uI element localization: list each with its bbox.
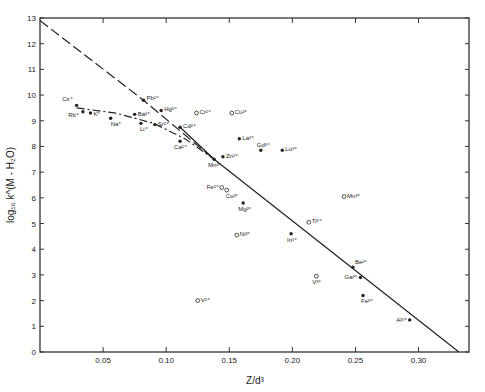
point-label: Gd³⁺	[257, 142, 270, 148]
point-label: Li⁺	[140, 126, 148, 132]
filled-data-point	[281, 149, 284, 152]
filled-data-point	[238, 137, 241, 140]
y-tick-label: 13	[27, 14, 36, 23]
point-label: Ti³⁺	[312, 218, 322, 224]
point-label: In³⁺	[287, 237, 297, 243]
open-data-point	[220, 186, 224, 190]
plot-border	[40, 18, 469, 352]
axis-ticks: 0.050.100.150.200.250.300123456789101112…	[27, 14, 469, 365]
open-data-point	[195, 111, 199, 115]
y-axis-title: log₁₀ k^(M - H₂O)	[5, 147, 16, 223]
point-label: La³⁺	[242, 135, 254, 141]
y-tick-label: 9	[32, 117, 37, 126]
filled-data-point	[139, 122, 142, 125]
point-label: Rb⁺	[68, 112, 79, 118]
point-label: Cr²⁺	[199, 109, 210, 115]
y-tick-label: 11	[28, 65, 37, 74]
point-label: Mg²⁺	[238, 206, 251, 212]
filled-data-point	[178, 140, 181, 143]
open-data-point	[314, 274, 318, 278]
point-label: Fe³⁺	[361, 298, 373, 304]
x-tick-label: 0.30	[411, 356, 427, 365]
y-tick-label: 6	[32, 194, 37, 203]
filled-data-point	[241, 201, 244, 204]
point-label: V³⁺	[312, 279, 321, 285]
filled-data-point	[109, 117, 112, 120]
point-label: Cs⁺	[62, 96, 72, 102]
filled-data-point	[351, 266, 354, 269]
filled-data-point	[133, 113, 136, 116]
filled-data-point	[178, 125, 181, 128]
filled-data-point	[359, 276, 362, 279]
open-data-point	[307, 220, 311, 224]
scatter-chart: 0.050.100.150.200.250.300123456789101112…	[0, 0, 485, 392]
filled-data-point	[89, 111, 92, 114]
point-label: Mn²⁺	[208, 162, 221, 168]
filled-data-point	[153, 123, 156, 126]
filled-data-point	[159, 109, 162, 112]
point-label: Al³⁺	[396, 317, 406, 323]
x-tick-label: 0.10	[158, 356, 174, 365]
x-tick-label: 0.15	[221, 356, 237, 365]
filled-data-point	[75, 104, 78, 107]
filled-data-point	[142, 99, 145, 102]
y-tick-label: 4	[32, 245, 37, 254]
point-label: Ni²⁺	[240, 231, 251, 237]
point-label: Be²⁺	[355, 259, 367, 265]
y-tick-label: 10	[27, 91, 36, 100]
plot-frame	[40, 18, 469, 352]
point-label: Cd²⁺	[183, 123, 196, 129]
point-label: Ca²⁺	[174, 144, 187, 150]
y-tick-label: 7	[32, 168, 37, 177]
point-label: Ga³⁺	[344, 274, 357, 280]
y-tick-label: 12	[27, 40, 36, 49]
data-points: Cs⁺Rb⁺K⁺Na⁺Pb²⁺Ba²⁺Li⁺Hg²⁺Sr²⁺Cd²⁺Ca²⁺Mn…	[62, 95, 411, 323]
point-label: K⁺	[93, 111, 100, 117]
filled-data-point	[259, 149, 262, 152]
point-label: Sr²⁺	[158, 121, 169, 127]
filled-data-point	[81, 110, 84, 113]
point-label: Na⁺	[111, 121, 122, 127]
filled-data-point	[361, 294, 364, 297]
point-label: Hg²⁺	[164, 106, 177, 112]
point-label: Cu²⁺	[235, 109, 248, 115]
y-tick-label: 0	[32, 348, 37, 357]
point-label: Lu³⁺	[285, 146, 297, 152]
point-label: Zn²⁺	[226, 153, 238, 159]
y-tick-label: 8	[32, 142, 37, 151]
open-data-point	[342, 195, 346, 199]
filled-data-point	[221, 155, 224, 158]
open-data-point	[196, 299, 200, 303]
point-label: Fe²⁺	[207, 184, 219, 190]
filled-data-point	[212, 158, 215, 161]
open-data-point	[225, 188, 229, 192]
point-label: V²⁺	[201, 297, 210, 303]
point-label: Pb²⁺	[146, 95, 158, 101]
point-label: Mn³⁺	[347, 193, 360, 199]
x-tick-label: 0.05	[95, 356, 111, 365]
open-data-point	[235, 233, 239, 237]
open-data-point	[230, 111, 234, 115]
long-dashed-line	[40, 21, 214, 160]
point-label: Ba²⁺	[138, 111, 150, 117]
y-tick-label: 2	[32, 297, 37, 306]
y-tick-label: 5	[32, 220, 37, 229]
x-tick-label: 0.25	[348, 356, 364, 365]
filled-data-point	[289, 232, 292, 235]
solid-fit-line	[180, 127, 459, 352]
point-label: Co²⁺	[226, 193, 239, 199]
fit-lines	[40, 21, 459, 352]
x-axis-title: Z/d³	[246, 375, 264, 386]
y-tick-label: 1	[32, 322, 37, 331]
y-tick-label: 3	[32, 271, 37, 280]
x-tick-label: 0.20	[285, 356, 301, 365]
filled-data-point	[408, 318, 411, 321]
